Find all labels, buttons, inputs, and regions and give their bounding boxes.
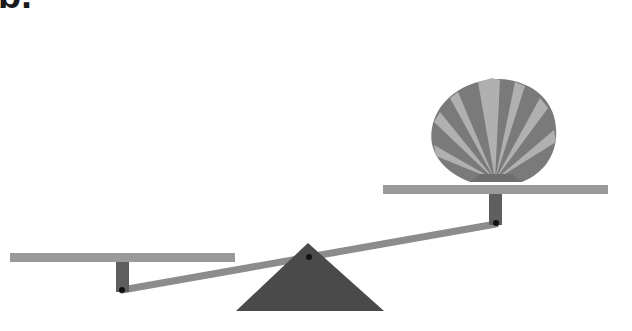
right-platform (383, 185, 608, 194)
right-pivot-dot (493, 220, 499, 226)
right-post (489, 191, 502, 225)
fulcrum-pivot-dot (306, 254, 312, 260)
scallop-shell-icon (431, 78, 556, 182)
fulcrum-triangle (236, 243, 384, 311)
left-platform (10, 253, 235, 262)
seesaw-diagram (0, 0, 632, 331)
left-pivot-dot (119, 287, 125, 293)
